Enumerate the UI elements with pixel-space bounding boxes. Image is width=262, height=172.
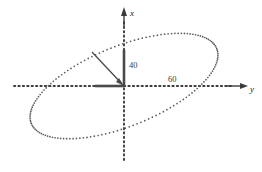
ellipse-dot [32, 104, 34, 106]
ellipse-dot [210, 72, 212, 74]
ellipse-dot [83, 137, 85, 139]
ellipse-dot [33, 127, 35, 129]
ellipse-dot [207, 77, 209, 79]
ellipse-dot [141, 37, 143, 39]
x-axis-arrow-icon [121, 7, 127, 26]
ellipse-dot [34, 128, 36, 130]
y-reference-value-label: 60 [168, 74, 177, 84]
ellipse-dot [128, 126, 130, 128]
ellipse-dot [72, 138, 74, 140]
ellipse-dot [206, 38, 208, 40]
ellipse-dot [140, 121, 142, 123]
ellipse-dot [90, 136, 92, 138]
ellipse-dot [203, 81, 205, 83]
ellipse-dot [217, 53, 219, 55]
ellipse-dot [101, 134, 103, 136]
ellipse-dot [149, 36, 151, 38]
ellipse-dot [29, 118, 31, 120]
ellipse-dot [76, 138, 78, 140]
ellipse-dot [138, 38, 140, 40]
ellipse-dot [73, 65, 75, 67]
ellipse-dot [55, 78, 57, 80]
ellipse-dot [182, 99, 184, 101]
ellipse-dot [106, 49, 108, 51]
ellipse-dot [195, 34, 197, 36]
ellipse-dot [213, 68, 215, 70]
ellipse-dot [160, 34, 162, 36]
ellipse-dot [77, 63, 79, 65]
ellipse-dot [177, 32, 179, 34]
y-axis-arrow-icon [225, 83, 248, 89]
ellipse-dot [32, 126, 34, 128]
ellipse-dot [109, 132, 111, 134]
ellipse-dot [217, 58, 219, 60]
ellipse-dot [187, 33, 189, 35]
ellipse-dot [189, 33, 191, 35]
ellipse-dot [155, 115, 157, 117]
ellipse-dot [134, 39, 136, 41]
ellipse-dot [99, 52, 101, 54]
ellipse-dot [213, 43, 215, 45]
ellipse-dot [30, 112, 32, 114]
ellipse-dot [164, 33, 166, 35]
ellipse-dot [69, 138, 71, 140]
ellipse-dot [197, 34, 199, 36]
ellipse-dot [105, 133, 107, 135]
ellipse-dot [43, 89, 45, 91]
ellipse-dot [157, 34, 159, 36]
ellipse-dot [153, 35, 155, 37]
ellipse-dot [91, 56, 93, 58]
ellipse-dot [79, 137, 81, 139]
ellipse-dot [209, 40, 211, 42]
ellipse-dot [61, 74, 63, 76]
ellipse-dot [29, 116, 31, 118]
ellipse-dot [124, 127, 126, 129]
ellipse-dot [41, 133, 43, 135]
ellipse-dot [58, 76, 60, 78]
ellipse-dot [118, 44, 120, 46]
ellipse-dot [208, 39, 210, 41]
ellipse-dot [159, 113, 161, 115]
ellipse-dot [201, 83, 203, 85]
ellipse-dot [185, 96, 187, 98]
ellipse-dot [30, 123, 32, 125]
ellipse-dot [194, 90, 196, 92]
ellipse-dot [35, 100, 37, 102]
ellipse-dot [66, 138, 68, 140]
ellipse-dot [36, 98, 38, 100]
ellipse-dot [217, 51, 219, 53]
ellipse-dot [200, 35, 202, 37]
ellipse-dot [216, 62, 218, 64]
ellipse-dot [80, 61, 82, 63]
ellipse-dot [45, 134, 47, 136]
plot-canvas: y x 40 60 [0, 0, 262, 172]
ellipse-dot [39, 132, 41, 134]
ellipse-dot [217, 54, 219, 56]
ellipse-dot [148, 118, 150, 120]
ellipse-dot [38, 96, 40, 98]
ellipse-dot [136, 123, 138, 125]
ellipse-dot [179, 101, 181, 103]
ellipse-dot [33, 102, 35, 104]
ellipse-dot [87, 58, 89, 60]
ellipse-dot [174, 33, 176, 35]
ellipse-dot [196, 88, 198, 90]
ellipse-dot [209, 74, 211, 76]
ellipse-dot [152, 116, 154, 118]
ellipse-dot [216, 48, 218, 50]
ellipse-dot [64, 72, 66, 74]
ellipse-dot [199, 85, 201, 87]
ellipse-dot [215, 46, 217, 48]
ellipse-dot [49, 136, 51, 138]
ellipse-dot [84, 60, 86, 62]
ellipse-dot [31, 108, 33, 110]
ellipse-dot [30, 119, 32, 121]
ellipse-dot [121, 129, 123, 131]
ellipse-dot [167, 33, 169, 35]
ellipse-dot [144, 120, 146, 122]
ellipse-dot [48, 85, 50, 87]
ellipse-dot [30, 110, 32, 112]
ellipse-dot [70, 68, 72, 70]
ellipse-dot [67, 70, 69, 72]
ellipse-dot [191, 92, 193, 94]
